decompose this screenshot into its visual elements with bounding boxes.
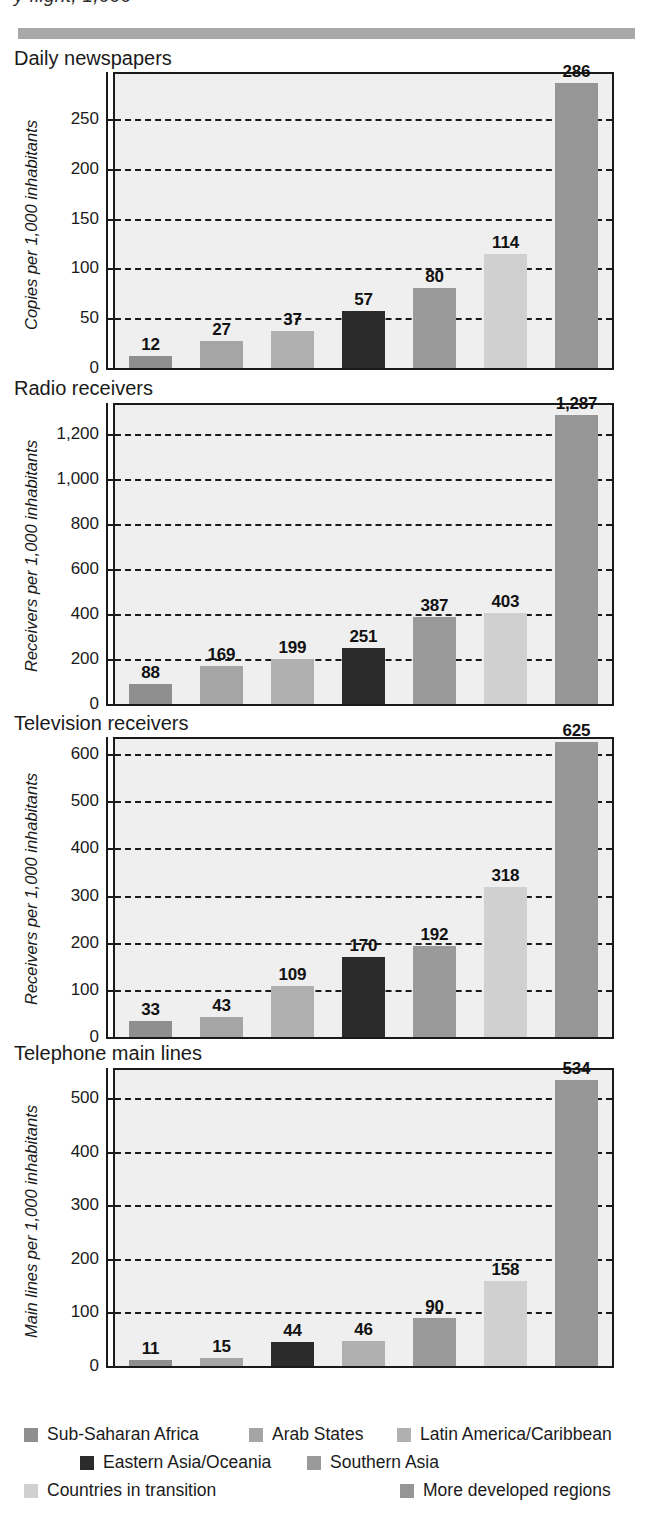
- chart-legend: Sub-Saharan AfricaArab StatesLatin Ameri…: [0, 1424, 647, 1508]
- legend-row: Countries in transitionMore developed re…: [0, 1480, 647, 1508]
- bar: 57: [342, 311, 385, 368]
- bar: 1,287: [555, 415, 598, 704]
- axis-tick-mark: [108, 524, 115, 526]
- bar: 44: [271, 1342, 314, 1366]
- bar: 192: [413, 946, 456, 1037]
- bar: 625: [555, 742, 598, 1037]
- y-axis-tick-label: 0: [0, 694, 99, 714]
- bar-value-label: 199: [279, 638, 307, 658]
- chart-title: Daily newspapers: [14, 48, 172, 68]
- legend-item[interactable]: Latin America/Caribbean: [397, 1424, 612, 1445]
- y-axis-tick-label: 50: [0, 308, 99, 328]
- y-axis-tick-label: 400: [0, 838, 99, 858]
- y-axis-tick-label: 1,000: [0, 469, 99, 489]
- axis-tick-mark: [108, 614, 115, 616]
- gridline: [115, 848, 612, 850]
- gridline: [115, 268, 612, 270]
- bar: 169: [200, 666, 243, 704]
- legend-label: Southern Asia: [330, 1452, 439, 1473]
- cut-off-header-text: y flight, 1,000: [0, 0, 647, 18]
- y-axis-tick-label: 400: [0, 604, 99, 624]
- bar: 80: [413, 288, 456, 368]
- bar: 318: [484, 887, 527, 1037]
- gridline: [115, 1312, 612, 1314]
- chart-title: Radio receivers: [14, 378, 153, 398]
- bar: 43: [200, 1017, 243, 1037]
- legend-label: Countries in transition: [47, 1480, 216, 1501]
- bar: 251: [342, 648, 385, 704]
- legend-item[interactable]: More developed regions: [400, 1480, 611, 1501]
- gridline: [115, 1098, 612, 1100]
- legend-label: Latin America/Caribbean: [420, 1424, 612, 1445]
- legend-label: Eastern Asia/Oceania: [103, 1452, 271, 1473]
- gridline: [115, 219, 612, 221]
- axis-tick-mark: [108, 1366, 115, 1368]
- axis-tick-mark: [108, 1037, 115, 1039]
- gridline: [115, 614, 612, 616]
- bar: 15: [200, 1358, 243, 1366]
- axis-tick-mark: [108, 434, 115, 436]
- axis-tick-mark: [108, 848, 115, 850]
- axis-tick-mark: [108, 479, 115, 481]
- legend-row: Eastern Asia/OceaniaSouthern Asia: [0, 1452, 647, 1480]
- y-axis-tick-label: 200: [0, 159, 99, 179]
- bar-value-label: 46: [354, 1320, 373, 1340]
- bar: 114: [484, 254, 527, 368]
- bar-value-label: 44: [283, 1321, 302, 1341]
- gridline: [115, 1205, 612, 1207]
- plot-area: 1115444690158534: [113, 1068, 614, 1368]
- axis-tick-mark: [108, 569, 115, 571]
- y-axis-tick-label: 600: [0, 559, 99, 579]
- axis-tick-mark: [108, 659, 115, 661]
- axis-tick-mark: [108, 896, 115, 898]
- y-axis-tick-label: 500: [0, 1088, 99, 1108]
- bar-value-label: 57: [354, 290, 373, 310]
- gridline: [115, 524, 612, 526]
- chart-title: Television receivers: [14, 713, 189, 733]
- y-axis-tick-label: 250: [0, 109, 99, 129]
- bar-value-label: 88: [141, 663, 160, 683]
- legend-item[interactable]: Arab States: [249, 1424, 363, 1445]
- legend-item[interactable]: Sub-Saharan Africa: [24, 1424, 199, 1445]
- bar: 90: [413, 1318, 456, 1366]
- plot-area: 3343109170192318625: [113, 737, 614, 1039]
- legend-item[interactable]: Eastern Asia/Oceania: [80, 1452, 271, 1473]
- legend-swatch-icon: [307, 1456, 321, 1470]
- bar: 534: [555, 1080, 598, 1366]
- bar-value-label: 170: [350, 936, 378, 956]
- bar-value-label: 80: [425, 267, 444, 287]
- axis-tick-mark: [108, 943, 115, 945]
- axis-tick-mark: [108, 990, 115, 992]
- y-axis-tick-label: 200: [0, 649, 99, 669]
- bar: 12: [129, 356, 172, 368]
- bar: 170: [342, 957, 385, 1037]
- bar-value-label: 318: [492, 866, 520, 886]
- bar: 11: [129, 1360, 172, 1366]
- bar-value-label: 1,287: [556, 394, 598, 414]
- bar: 46: [342, 1341, 385, 1366]
- gridline: [115, 434, 612, 436]
- legend-item[interactable]: Countries in transition: [24, 1480, 216, 1501]
- plot-area: 881691992513874031,287: [113, 403, 614, 706]
- bar: 286: [555, 83, 598, 368]
- axis-tick-mark: [108, 754, 115, 756]
- axis-tick-mark: [108, 268, 115, 270]
- bar-value-label: 109: [279, 965, 307, 985]
- gridline: [115, 896, 612, 898]
- axis-tick-mark: [108, 368, 115, 370]
- legend-item[interactable]: Southern Asia: [307, 1452, 439, 1473]
- y-axis-line: [106, 72, 108, 370]
- y-axis-tick-label: 0: [0, 1356, 99, 1376]
- bar-value-label: 27: [212, 320, 231, 340]
- legend-swatch-icon: [397, 1428, 411, 1442]
- legend-label: Arab States: [272, 1424, 363, 1445]
- bar: 37: [271, 331, 314, 368]
- gridline: [115, 1259, 612, 1261]
- axis-tick-mark: [108, 704, 115, 706]
- bar-value-label: 33: [141, 1000, 160, 1020]
- bar-value-label: 12: [141, 335, 160, 355]
- y-axis-tick-label: 800: [0, 514, 99, 534]
- legend-swatch-icon: [400, 1484, 414, 1498]
- y-axis-tick-label: 150: [0, 209, 99, 229]
- legend-label: Sub-Saharan Africa: [47, 1424, 199, 1445]
